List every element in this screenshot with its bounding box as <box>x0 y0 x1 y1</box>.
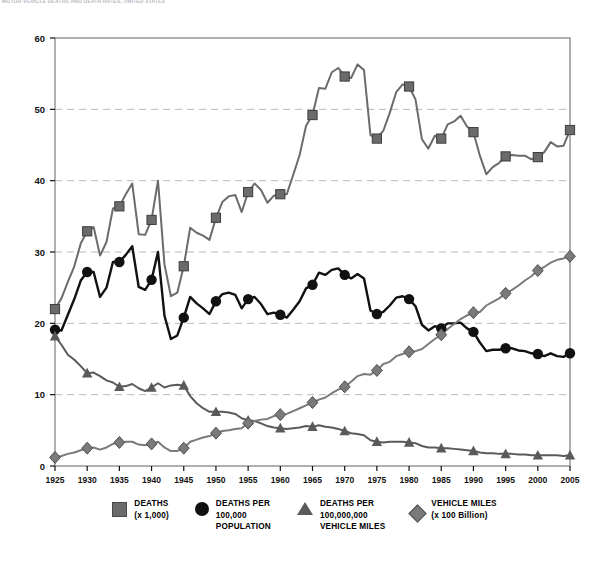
square-marker <box>50 304 59 313</box>
square-marker <box>404 82 413 91</box>
diamond-marker <box>82 442 93 454</box>
triangle-marker <box>297 502 313 515</box>
x-axis-tick-label: 1990 <box>464 475 483 485</box>
x-axis-tick-label: 2000 <box>528 475 547 485</box>
diamond-marker <box>565 250 576 262</box>
x-axis-tick-label: 1940 <box>142 475 161 485</box>
legend-marker-wrap-0 <box>112 502 127 517</box>
circle-marker <box>146 275 156 285</box>
diamond-marker <box>468 307 479 319</box>
circle-marker <box>500 343 510 353</box>
circle-marker <box>179 312 189 322</box>
square-marker <box>115 202 124 211</box>
diamond-marker <box>404 346 415 358</box>
legend-label-0: DEATHS (x 1,000) <box>134 498 169 521</box>
x-axis-tick-label: 2005 <box>561 475 580 485</box>
x-axis-tick-label: 1960 <box>271 475 290 485</box>
square-marker <box>179 262 188 271</box>
legend-item-0[interactable]: DEATHS (x 1,000) <box>112 498 169 521</box>
square-marker <box>147 215 156 224</box>
diamond-marker <box>339 381 350 393</box>
y-axis-tick-label: 50 <box>34 104 45 115</box>
circle-marker <box>468 327 478 337</box>
y-tick-marks <box>50 38 55 466</box>
legend-item-1[interactable]: DEATHS PER 100,000 POPULATION <box>195 498 271 533</box>
circle-marker <box>243 294 253 304</box>
x-axis-tick-label: 1970 <box>335 475 354 485</box>
y-axis-tick-label: 20 <box>34 318 45 329</box>
x-axis-labels: 1925193019351940194519501955196019651970… <box>46 475 580 485</box>
series-line-0 <box>55 64 570 309</box>
x-axis-tick-label: 1965 <box>303 475 322 485</box>
circle-marker <box>404 294 414 304</box>
legend-marker-wrap-1 <box>195 502 209 516</box>
diamond-marker <box>307 397 318 409</box>
x-axis-tick-label: 1945 <box>174 475 193 485</box>
legend-marker-wrap-2 <box>297 502 313 515</box>
chart-plot-area: 0102030405060 19251930193519401945195019… <box>0 0 599 500</box>
y-axis-labels: 0102030405060 <box>34 33 45 472</box>
circle-marker <box>114 257 124 267</box>
diamond-marker <box>114 436 125 448</box>
x-tick-marks <box>55 466 570 471</box>
diamond-marker <box>146 438 157 450</box>
square-marker <box>533 153 542 162</box>
square-marker <box>372 134 381 143</box>
y-axis-tick-label: 30 <box>34 247 45 258</box>
x-axis-tick-label: 1930 <box>78 475 97 485</box>
circle-marker <box>339 270 349 280</box>
square-marker <box>340 72 349 81</box>
circle-marker <box>372 309 382 319</box>
x-axis-tick-label: 1955 <box>239 475 258 485</box>
diamond-marker <box>275 409 286 421</box>
x-axis-tick-label: 1925 <box>46 475 65 485</box>
square-marker <box>308 110 317 119</box>
circle-marker <box>82 267 92 277</box>
series-markers-group <box>50 72 576 464</box>
chart-legend: DEATHS (x 1,000)DEATHS PER 100,000 POPUL… <box>0 498 599 558</box>
diamond-marker <box>409 504 427 522</box>
diamond-marker <box>50 451 61 463</box>
circle-marker <box>533 349 543 359</box>
square-marker <box>565 125 574 134</box>
legend-marker-wrap-3 <box>411 502 424 520</box>
diamond-marker <box>211 427 222 439</box>
chart-container: MOTOR VEHICLE DEATHS AND DEATH RATES, UN… <box>0 0 599 562</box>
square-marker <box>437 134 446 143</box>
circle-marker <box>307 280 317 290</box>
legend-label-2: DEATHS PER 100,000,000 VEHICLE MILES <box>320 498 385 533</box>
square-marker <box>112 502 127 517</box>
x-axis-tick-label: 1935 <box>110 475 129 485</box>
y-axis-tick-label: 40 <box>34 175 45 186</box>
x-axis-tick-label: 1980 <box>400 475 419 485</box>
x-axis-tick-label: 1975 <box>367 475 386 485</box>
circle-marker <box>195 502 209 516</box>
y-axis-tick-label: 10 <box>34 389 45 400</box>
y-axis-tick-label: 0 <box>40 461 45 472</box>
chart-title: MOTOR VEHICLE DEATHS AND DEATH RATES, UN… <box>2 0 165 4</box>
square-marker <box>211 213 220 222</box>
x-axis-tick-label: 1985 <box>432 475 451 485</box>
y-axis-tick-label: 60 <box>34 33 45 44</box>
circle-marker <box>211 296 221 306</box>
legend-label-3: VEHICLE MILES (x 100 Billion) <box>431 498 496 521</box>
legend-item-3[interactable]: VEHICLE MILES (x 100 Billion) <box>411 498 496 521</box>
square-marker <box>83 227 92 236</box>
square-marker <box>501 152 510 161</box>
x-axis-tick-label: 1950 <box>206 475 225 485</box>
square-marker <box>244 187 253 196</box>
legend-label-1: DEATHS PER 100,000 POPULATION <box>216 498 271 533</box>
triangle-marker <box>146 382 156 392</box>
circle-marker <box>565 348 575 358</box>
square-marker <box>276 190 285 199</box>
x-axis-tick-label: 1995 <box>496 475 515 485</box>
circle-marker <box>275 310 285 320</box>
square-marker <box>469 128 478 137</box>
legend-item-2[interactable]: DEATHS PER 100,000,000 VEHICLE MILES <box>297 498 385 533</box>
